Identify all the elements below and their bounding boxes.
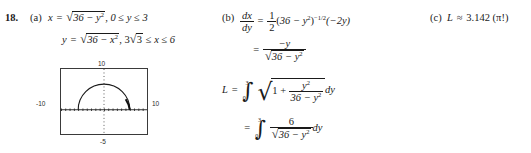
comma: , xyxy=(105,12,108,23)
derivative-fraction: dx dy xyxy=(240,10,254,34)
graph-label-left: -10 xyxy=(36,100,45,107)
part-b-derivative-line1: dx dy = 1 2 (36 − y2)−1/2(−2y) xyxy=(240,10,350,34)
radicand-text: 36 − y xyxy=(272,51,300,62)
square-root-expression: √36 − y2 xyxy=(66,11,105,24)
coefficient-denominator: 2 xyxy=(267,21,276,33)
radicand: 36 − y2 xyxy=(278,128,311,140)
one-half-fraction: 1 2 xyxy=(267,10,276,34)
arc-length-value: 3.142 xyxy=(466,12,490,23)
radicand-text: 36 − x xyxy=(87,34,115,45)
calculator-graph-figure: 10 -10 10 -5 xyxy=(28,58,178,150)
denominator-text: 36 − y xyxy=(291,92,319,103)
approximately-equal-sign: ≈ xyxy=(455,12,463,23)
differential: dy xyxy=(325,84,335,95)
graph-label-right: 10 xyxy=(152,100,159,107)
graph-plot-area xyxy=(61,69,147,134)
radicand: 36 − x2 xyxy=(86,33,119,45)
part-c-result: L ≈ 3.142 (π!) xyxy=(447,12,508,23)
equals-sign: = xyxy=(69,34,77,45)
integral-upper-limit: 3 xyxy=(245,80,248,86)
derivative-denominator: dy xyxy=(240,21,254,33)
graph-viewing-window xyxy=(60,68,148,135)
part-b-derivative-line2: = −y √36 − y2 xyxy=(252,38,306,63)
radicand-text: 36 − y xyxy=(279,129,307,140)
equals-sign: = xyxy=(230,84,238,95)
part-a-equation-line1: x = √36 − y2 , 0 ≤ y ≤ 3 xyxy=(48,11,148,24)
square-root-expression: √36 − y2 xyxy=(265,50,304,63)
radicand-exponent: 2 xyxy=(299,49,302,56)
equals-sign: = xyxy=(252,44,260,55)
part-b-arclength-line1: L = ∫ 3 0 √1 + y2 36 − y2 dy xyxy=(222,78,335,104)
square-root-expression: √36 − y2 xyxy=(272,128,311,141)
radicand-exponent: 2 xyxy=(101,10,104,17)
integral-lower-limit: 0 xyxy=(243,95,246,101)
integral-upper-limit: 3 xyxy=(258,117,261,123)
variable-x: x xyxy=(48,12,53,23)
fraction-numerator: y2 xyxy=(289,80,324,91)
coefficient-numerator: 1 xyxy=(267,10,276,21)
fraction-denominator: √36 − y2 xyxy=(263,49,306,63)
radicand-exponent: 2 xyxy=(306,127,309,134)
domain-condition: ≤ x ≤ 6 xyxy=(146,34,175,45)
comma: , xyxy=(119,34,122,45)
square-root-expression: √1 + y2 36 − y2 xyxy=(257,78,325,104)
variable-y: y xyxy=(62,34,67,45)
base-expression: 36 − y xyxy=(280,15,308,26)
ratio-fraction: y2 36 − y2 xyxy=(289,80,324,104)
radicand: 36 − y2 xyxy=(271,50,304,62)
radicand: 1 + y2 36 − y2 xyxy=(271,78,325,104)
part-label-a: (a) xyxy=(30,12,42,23)
pi-note: (π!) xyxy=(493,12,509,23)
derivative-numerator: dx xyxy=(240,10,254,21)
simplified-derivative-fraction: −y √36 − y2 xyxy=(263,38,306,63)
definite-integral: ∫ 3 0 xyxy=(242,83,253,99)
equals-sign: = xyxy=(55,12,63,23)
radicand-exponent: 2 xyxy=(115,32,118,39)
definite-integral: ∫ 3 0 xyxy=(254,120,265,136)
differential: dy xyxy=(313,122,323,133)
radicand: 36 − y2 xyxy=(72,11,105,23)
fraction-numerator: −y xyxy=(263,38,306,49)
radicand-text: 36 − y xyxy=(73,12,101,23)
part-a-equation-line2: y = √36 − x2 , 3√3 ≤ x ≤ 6 xyxy=(62,33,175,46)
chain-rule-factor: (−2y) xyxy=(326,15,350,26)
part-label-b: (b) xyxy=(222,12,234,23)
power-exponent: −1/2 xyxy=(314,14,326,21)
arc-length-symbol: L xyxy=(447,12,453,23)
graph-label-top: 10 xyxy=(98,60,105,67)
fraction-denominator: √36 − y2 xyxy=(270,127,313,141)
part-label-c: (c) xyxy=(430,12,442,23)
square-root-expression: √36 − x2 xyxy=(80,33,119,46)
domain-condition: 0 ≤ y ≤ 3 xyxy=(110,12,147,23)
numerator-exponent: 2 xyxy=(307,78,310,85)
fraction-denominator: 36 − y2 xyxy=(289,91,324,103)
equals-sign: = xyxy=(256,15,264,26)
equals-sign: = xyxy=(243,122,251,133)
highlighted-arc-segment xyxy=(126,99,130,109)
one-plus-text: 1 + xyxy=(272,85,286,96)
radical-sign: √ xyxy=(257,87,272,99)
arc-length-symbol: L xyxy=(222,84,228,95)
worked-solution-page: 18. (a) x = √36 − y2 , 0 ≤ y ≤ 3 y = √36… xyxy=(0,0,531,153)
square-root-three: √3 xyxy=(130,33,143,46)
integral-lower-limit: 0 xyxy=(255,133,258,139)
denominator-exponent: 2 xyxy=(318,91,321,98)
fraction-numerator: 6 xyxy=(270,116,313,127)
radicand: 3 xyxy=(136,33,143,45)
integrand-fraction: 6 √36 − y2 xyxy=(270,116,313,141)
part-b-arclength-line2: = ∫ 3 0 6 √36 − y2 dy xyxy=(243,116,323,141)
problem-number: 18. xyxy=(5,12,18,23)
graph-label-bottom: -5 xyxy=(100,138,106,145)
